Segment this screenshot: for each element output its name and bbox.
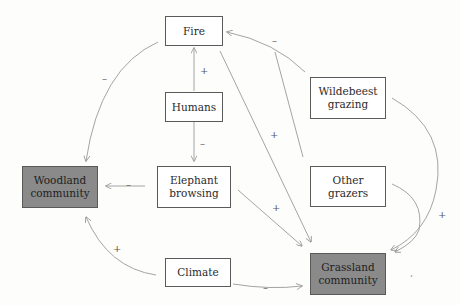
sign-humans-fire: + bbox=[200, 66, 208, 76]
node-elephant-label: Elephant browsing bbox=[164, 174, 224, 200]
node-woodland-label: Woodland community bbox=[30, 174, 89, 200]
sign-fire-woodland: – bbox=[102, 74, 107, 84]
node-wildebeest-grazing: Wildebeest grazing bbox=[310, 77, 386, 119]
stray-mark: , bbox=[410, 268, 413, 278]
node-fire-label: Fire bbox=[183, 25, 205, 38]
edge-fire-grassland bbox=[220, 51, 311, 242]
edge-othergrazers-fire bbox=[275, 52, 303, 157]
node-humans-label: Humans bbox=[172, 101, 216, 114]
edge-wildebeest-grassland bbox=[391, 98, 438, 250]
node-climate: Climate bbox=[165, 258, 231, 287]
sign-elephant-grassland: + bbox=[272, 203, 280, 213]
node-humans: Humans bbox=[165, 92, 223, 122]
node-other-grazers-label: Other grazers bbox=[311, 174, 385, 200]
sign-fire-grassland: + bbox=[270, 130, 278, 140]
node-climate-label: Climate bbox=[177, 266, 218, 279]
node-grassland-community: Grassland community bbox=[310, 253, 386, 295]
sign-elephant-woodland: – bbox=[126, 180, 131, 190]
edge-fire-woodland bbox=[86, 42, 158, 161]
node-woodland-community: Woodland community bbox=[22, 166, 98, 208]
node-elephant-browsing: Elephant browsing bbox=[157, 166, 231, 208]
sign-humans-elephant: – bbox=[200, 139, 205, 149]
sign-grazers-grassland: + bbox=[438, 210, 446, 220]
food-web-diagram: Fire Humans Wildebeest grazing Woodland … bbox=[0, 0, 460, 305]
sign-climate-grassland: – bbox=[263, 283, 268, 293]
node-other-grazers: Other grazers bbox=[310, 166, 386, 207]
sign-grazers-fire: – bbox=[272, 36, 277, 46]
edge-elephant-grassland bbox=[238, 190, 302, 246]
edge-othergrazers-grassland bbox=[392, 184, 420, 252]
sign-climate-woodland: + bbox=[113, 244, 121, 254]
node-grassland-label: Grassland community bbox=[318, 261, 377, 287]
node-wildebeest-label: Wildebeest grazing bbox=[317, 85, 379, 111]
edge-wildebeest-fire bbox=[227, 32, 305, 72]
node-fire: Fire bbox=[165, 16, 223, 46]
